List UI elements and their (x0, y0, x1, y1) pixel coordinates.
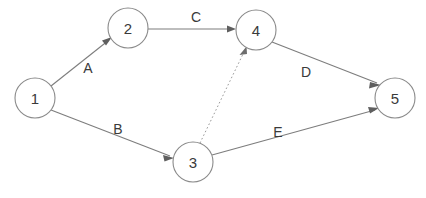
node-3-label: 3 (189, 154, 197, 171)
edge-e-line (212, 110, 375, 155)
edge-a-line (51, 40, 109, 86)
node-2-label: 2 (124, 20, 132, 37)
diagram-canvas: A B C D (0, 0, 426, 198)
node-4[interactable]: 4 (236, 10, 276, 50)
node-2[interactable]: 2 (108, 8, 148, 48)
node-5-label: 5 (391, 90, 399, 107)
edge-d-line (272, 42, 377, 83)
edge-e[interactable]: E (212, 107, 379, 155)
edge-dotted-line (200, 52, 244, 143)
edge-c[interactable]: C (148, 9, 236, 33)
edge-b-label: B (113, 121, 122, 137)
edge-dotted-3-to-4[interactable] (200, 47, 247, 144)
edge-d-label: D (301, 64, 311, 80)
edge-c-arrowhead-icon (227, 26, 236, 33)
edge-a-label: A (83, 60, 93, 76)
edge-a[interactable]: A (51, 37, 112, 86)
edge-d[interactable]: D (272, 42, 381, 89)
edge-c-label: C (191, 9, 201, 25)
node-1[interactable]: 1 (15, 78, 55, 118)
node-3[interactable]: 3 (173, 142, 213, 182)
node-5[interactable]: 5 (375, 78, 415, 118)
node-4-label: 4 (252, 22, 260, 39)
node-1-label: 1 (31, 90, 39, 107)
edge-b[interactable]: B (51, 110, 174, 162)
graph-svg: A B C D (0, 0, 426, 198)
edge-group: A B C D (51, 9, 381, 162)
edge-e-label: E (273, 124, 282, 140)
node-group: 1 2 3 4 5 (15, 8, 415, 182)
edge-b-line (51, 110, 170, 156)
